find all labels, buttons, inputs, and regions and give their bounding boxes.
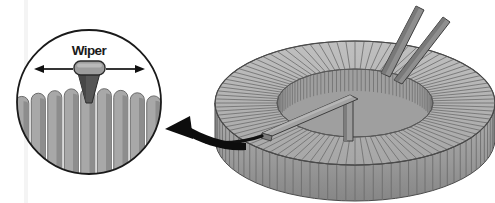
wiper-label: Wiper — [72, 43, 108, 58]
potentiometer-figure: Wiper — [0, 0, 495, 203]
wiper-detail-circle: Wiper — [0, 0, 495, 203]
wiper-cap-highlight — [77, 64, 102, 68]
wiper-cap — [74, 61, 105, 75]
